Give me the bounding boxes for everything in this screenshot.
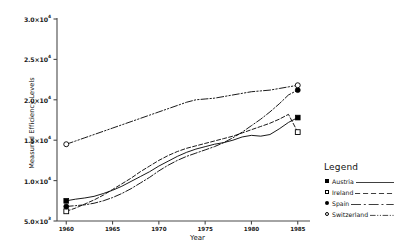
legend-line-sample — [351, 200, 394, 206]
legend-item-label: Ireland — [332, 189, 353, 196]
series-marker-start-switzerland — [64, 142, 69, 147]
chart-root: 5.0×1031.0×1041.5×1042.0×1042.5×1043.0×1… — [0, 0, 395, 246]
y-tick-label: 2.5×104 — [0, 56, 51, 63]
legend-item-switzerland[interactable]: Switzerland — [322, 209, 394, 219]
x-tick-label: 1970 — [151, 226, 166, 232]
x-axis-title: Year — [0, 234, 395, 242]
series-line-spain — [66, 90, 297, 206]
legend-title: Legend — [324, 162, 394, 172]
series-marker-end-austria — [295, 115, 300, 120]
x-tick-label: 1965 — [105, 226, 120, 232]
x-tick-label: 1980 — [244, 226, 259, 232]
y-tick-label: 3.0×104 — [0, 16, 51, 23]
legend-marker-filled-square-icon — [322, 179, 331, 183]
legend-line-sample — [355, 189, 394, 195]
y-axis-title: Measured Efficiency Levels — [28, 63, 36, 183]
legend-item-label: Spain — [332, 200, 349, 207]
series-marker-start-spain — [64, 204, 69, 209]
legend-item-ireland[interactable]: Ireland — [322, 187, 394, 197]
series-marker-end-switzerland — [295, 83, 300, 88]
legend-rows: AustriaIrelandSpainSwitzerland — [322, 176, 394, 219]
x-tick-label: 1975 — [198, 226, 213, 232]
series-marker-start-ireland — [64, 209, 69, 214]
series-marker-start-austria — [64, 198, 69, 203]
x-tick-label: 1960 — [59, 226, 74, 232]
y-tick-label: 1.0×104 — [0, 177, 51, 184]
series-marker-end-ireland — [295, 130, 300, 135]
series-line-ireland — [66, 114, 297, 211]
series-line-austria — [66, 118, 297, 201]
legend-item-label: Austria — [332, 178, 354, 185]
legend-marker-open-circle-icon — [322, 212, 331, 216]
legend-marker-open-square-icon — [322, 190, 331, 194]
legend-marker-filled-circle-icon — [322, 201, 331, 205]
legend-line-sample — [356, 178, 394, 184]
legend-item-spain[interactable]: Spain — [322, 198, 394, 208]
series-marker-end-spain — [295, 88, 300, 93]
legend-line-sample — [370, 211, 394, 217]
y-tick-label: 2.0×104 — [0, 96, 51, 103]
legend: Legend AustriaIrelandSpainSwitzerland — [322, 162, 394, 220]
y-tick-label: 1.5×104 — [0, 137, 51, 144]
legend-item-austria[interactable]: Austria — [322, 176, 394, 186]
legend-item-label: Switzerland — [332, 211, 368, 218]
y-tick-label: 5.0×103 — [0, 218, 51, 225]
x-tick-label: 1985 — [290, 226, 305, 232]
